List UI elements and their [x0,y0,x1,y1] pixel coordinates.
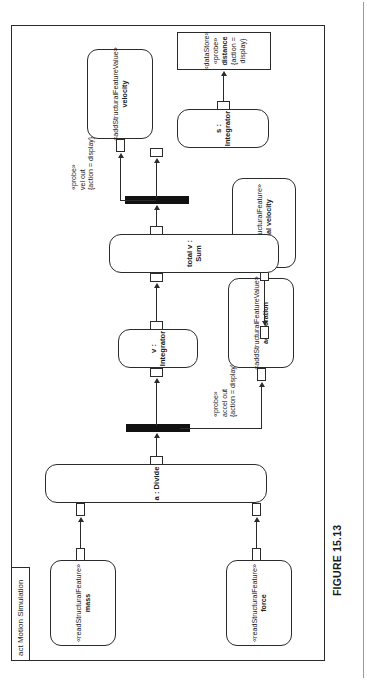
node-force[interactable]: «readStructuralFeature» force [226,560,292,646]
pin-s-integrator-out [217,101,230,110]
pin-v-integrator-out [150,321,163,330]
node-velocity[interactable]: «addStructuralFeatureValue» velocity [87,49,153,139]
node-distance-datastore[interactable]: «dataStore» «probe» distance {action = d… [177,32,271,70]
edge-mass-to-divide [80,521,81,548]
edge-fork-branch-vel-v [120,200,156,201]
pin-sum-in-initial-velocity [260,326,269,339]
edge-fork-branch-vel-h [120,155,121,201]
node-total-v-sum[interactable]: total v : Sum [109,234,279,273]
edge-force-to-divide [256,521,257,548]
node-s-integrator[interactable]: s : Integrator [177,109,269,148]
node-v-integrator-name: v : Integrator [149,330,167,367]
pin-sum-in-v [150,273,163,282]
pin-divide-out [150,456,163,465]
figure-caption: FIGURE 15.13 [331,526,343,596]
edge-label-accel-out-line2: accel out [221,364,230,417]
node-velocity-name: velocity [120,81,129,108]
activity-diagram-stage: act Motion Simulation «readStructuralFea… [11,21,329,661]
edge-initial-velocity-to-sum [264,280,265,322]
node-distance-stereotype-datastore: «dataStore» [202,31,211,70]
edge-fork-branch-accel-v [180,428,262,429]
edge-label-accel-out-line1: «probe» [212,364,221,417]
node-a-divide-name: a : Divide [152,467,161,501]
pin-force-out [252,548,261,561]
edge-label-vel-out-line3: {action = display} [87,137,96,190]
node-total-v-sum-name: total v : Sum [185,235,203,272]
edge-fork-to-s-integrator [156,160,157,198]
node-force-stereotype: «readStructuralFeature» [250,564,259,642]
pin-mass-out [76,548,85,561]
activity-frame-label: act Motion Simulation [12,567,30,660]
node-mass-name: mass [83,594,92,612]
arrow-fork-to-v-integrator [154,378,160,383]
figure-image: act Motion Simulation «readStructuralFea… [11,21,329,661]
edge-fork-to-v-integrator [156,380,157,426]
edge-label-accel-out: «probe» accel out {action = display} [212,364,238,417]
edge-label-vel-out-line1: «probe» [70,137,79,190]
arrow-fork-to-velocity [118,153,124,158]
arrow-force-to-divide [254,517,260,522]
edge-v-integrator-to-sum [156,285,157,321]
arrow-sum-to-fork [154,205,160,210]
node-mass[interactable]: «readStructuralFeature» mass [50,560,116,646]
pin-v-integrator-in [150,368,163,377]
node-a-divide[interactable]: a : Divide [45,464,267,503]
node-velocity-stereotype: «addStructuralFeatureValue» [111,47,120,140]
edge-label-vel-out-line2: vel out [79,137,88,190]
arrow-fork-to-s-integrator [154,158,160,163]
pin-velocity-in [116,139,125,152]
node-distance-stereotype-probe: «probe» [211,38,220,64]
edge-label-accel-out-line3: {action = display} [229,364,238,417]
pin-acceleration-in [257,368,266,381]
node-mass-stereotype: «readStructuralFeature» [74,564,83,642]
pin-sum-out [150,226,163,235]
pin-divide-in-force [252,503,261,516]
arrow-v-integrator-to-sum [154,283,160,288]
node-force-name: force [259,594,268,612]
arrow-mass-to-divide [78,517,84,522]
arrow-fork-to-acceleration [259,382,265,387]
node-distance-constraint: {action = display} [229,33,247,69]
node-v-integrator[interactable]: v : Integrator [118,329,198,368]
node-s-integrator-name: s : Integrator [214,110,232,147]
pin-divide-in-mass [76,503,85,516]
edge-fork-branch-accel-h [261,384,262,429]
page-edge-line [363,2,364,678]
arrow-s-integrator-to-distance [221,71,227,76]
node-distance-name: distance [220,36,229,65]
activity-frame: act Motion Simulation «readStructuralFea… [11,25,325,661]
node-acceleration-stereotype: «addStructuralFeatureValue» [252,276,261,369]
arrow-divide-to-fork [154,433,160,438]
edge-s-integrator-to-distance [223,73,224,101]
pin-s-integrator-in [150,148,163,157]
edge-label-vel-out: «probe» vel out {action = display} [70,137,96,190]
